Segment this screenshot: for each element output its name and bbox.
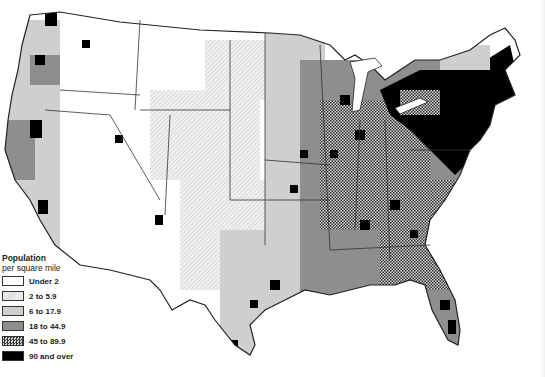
legend-swatch-90-and-over [2,351,24,361]
legend-swatch-18-to-44-9 [2,321,24,331]
legend-swatch-45-to-89-9 [2,336,24,346]
legend-swatch-2-to-5-9 [2,291,24,301]
legend-item-2-to-5-9: 2 to 5.9 [2,289,112,303]
legend-item-under-2: Under 2 [2,274,112,288]
legend-swatch-6-to-17-9 [2,306,24,316]
legend-item-6-to-17-9: 6 to 17.9 [2,304,112,318]
legend-label: 6 to 17.9 [29,307,61,316]
legend-label: Under 2 [29,277,59,286]
legend-swatch-under-2 [2,276,24,286]
page-edge-shadow [539,0,545,377]
legend-label: 2 to 5.9 [29,292,57,301]
legend-title-line1: Population [2,253,112,263]
legend-title-line2: per square mile [2,263,112,273]
legend-label: 45 to 89.9 [29,337,65,346]
legend-item-90-and-over: 90 and over [2,349,112,363]
legend-item-45-to-89-9: 45 to 89.9 [2,334,112,348]
legend-item-18-to-44-9: 18 to 44.9 [2,319,112,333]
legend: Population per square mile Under 2 2 to … [2,253,112,363]
legend-label: 18 to 44.9 [29,322,65,331]
legend-label: 90 and over [29,352,73,361]
